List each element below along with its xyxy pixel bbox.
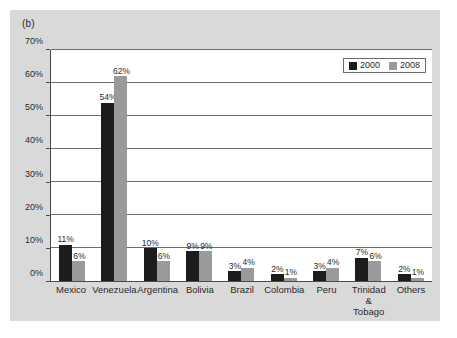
x-axis-category-label: Bolivia bbox=[179, 284, 221, 317]
bar-value-label: 4% bbox=[327, 258, 339, 267]
y-axis-tick bbox=[46, 248, 50, 249]
bar-value-label: 7% bbox=[356, 248, 368, 257]
bar-2000[interactable]: 3% bbox=[228, 271, 241, 281]
bar-2000[interactable]: 2% bbox=[398, 274, 411, 281]
bar-2000[interactable]: 9% bbox=[186, 251, 199, 281]
bar-value-label: 11% bbox=[57, 235, 73, 244]
y-axis-tick bbox=[46, 182, 50, 183]
y-axis-label: 30% bbox=[25, 169, 43, 178]
bar-2000[interactable]: 3% bbox=[313, 271, 326, 281]
legend-item-2000[interactable]: 2000 bbox=[349, 61, 380, 70]
bar-2008[interactable]: 6% bbox=[368, 261, 381, 281]
bar-value-label: 3% bbox=[229, 262, 241, 271]
y-axis-tick bbox=[46, 281, 50, 282]
bar-value-label: 1% bbox=[285, 268, 297, 277]
bar-value-label: 1% bbox=[412, 268, 424, 277]
legend-swatch-icon bbox=[349, 62, 357, 70]
legend-item-2008[interactable]: 2008 bbox=[389, 61, 420, 70]
bar-value-label: 3% bbox=[313, 262, 325, 271]
bar-group: 2%1% bbox=[390, 50, 432, 281]
bar-2000[interactable]: 54% bbox=[101, 103, 114, 281]
bar-group: 9%9% bbox=[178, 50, 220, 281]
x-axis-category-label: Mexico bbox=[50, 284, 92, 317]
bar-value-label: 9% bbox=[200, 242, 212, 251]
bar-2008[interactable]: 4% bbox=[241, 268, 254, 281]
bar-value-label: 6% bbox=[73, 252, 85, 261]
y-axis-label: 0% bbox=[30, 269, 43, 278]
bar-value-label: 62% bbox=[113, 67, 130, 76]
plot-wrapper: 11%6%54%62%10%6%9%9%3%4%2%1%3%4%7%6%2%1%… bbox=[50, 50, 432, 282]
bar-value-label: 6% bbox=[369, 252, 381, 261]
y-axis-tick bbox=[46, 115, 50, 116]
x-axis-category-label: Argentina bbox=[137, 284, 179, 317]
bar-2008[interactable]: 1% bbox=[284, 278, 297, 281]
bar-group: 11%6% bbox=[51, 50, 93, 281]
bar-2008[interactable]: 6% bbox=[72, 261, 85, 281]
bar-value-label: 2% bbox=[398, 265, 410, 274]
panel-label: (b) bbox=[22, 18, 35, 29]
bar-2008[interactable]: 9% bbox=[199, 251, 212, 281]
y-axis-label: 50% bbox=[25, 103, 43, 112]
bar-value-label: 4% bbox=[242, 258, 254, 267]
bar-group: 3%4% bbox=[220, 50, 262, 281]
bar-2000[interactable]: 11% bbox=[59, 245, 72, 281]
y-axis-label: 40% bbox=[25, 136, 43, 145]
y-axis-tick bbox=[46, 215, 50, 216]
x-axis-category-label: Colombia bbox=[263, 284, 305, 317]
bar-2008[interactable]: 62% bbox=[114, 76, 127, 281]
bar-group: 54%62% bbox=[93, 50, 135, 281]
y-axis-label: 60% bbox=[25, 70, 43, 79]
bar-series-container: 11%6%54%62%10%6%9%9%3%4%2%1%3%4%7%6%2%1% bbox=[51, 50, 432, 281]
legend-label: 2008 bbox=[400, 61, 420, 70]
x-axis-category-label: Trinidad & Tobago bbox=[348, 284, 390, 317]
y-axis-tick bbox=[46, 148, 50, 149]
bar-group: 10%6% bbox=[136, 50, 178, 281]
y-axis-tick bbox=[46, 82, 50, 83]
bar-2000[interactable]: 10% bbox=[144, 248, 157, 281]
bar-2008[interactable]: 4% bbox=[326, 268, 339, 281]
y-axis-tick bbox=[46, 49, 50, 50]
chart-legend: 20002008 bbox=[343, 58, 426, 73]
bar-value-label: 6% bbox=[158, 252, 170, 261]
x-axis-category-label: Venezuela bbox=[92, 284, 136, 317]
y-axis-label: 10% bbox=[25, 235, 43, 244]
x-axis-category-label: Others bbox=[390, 284, 432, 317]
bar-value-label: 9% bbox=[186, 242, 198, 251]
bar-value-label: 2% bbox=[271, 265, 283, 274]
bar-group: 3%4% bbox=[305, 50, 347, 281]
plot-area: 11%6%54%62%10%6%9%9%3%4%2%1%3%4%7%6%2%1% bbox=[50, 50, 432, 282]
bar-group: 7%6% bbox=[347, 50, 389, 281]
y-axis-label: 70% bbox=[25, 37, 43, 46]
bar-value-label: 10% bbox=[142, 239, 159, 248]
y-axis-label: 20% bbox=[25, 202, 43, 211]
legend-swatch-icon bbox=[389, 62, 397, 70]
legend-label: 2000 bbox=[360, 61, 380, 70]
bar-2000[interactable]: 2% bbox=[271, 274, 284, 281]
x-axis-category-label: Peru bbox=[305, 284, 347, 317]
x-axis-labels: MexicoVenezuelaArgentinaBoliviaBrazilCol… bbox=[50, 284, 432, 317]
bar-group: 2%1% bbox=[263, 50, 305, 281]
bar-2008[interactable]: 6% bbox=[157, 261, 170, 281]
x-axis-category-label: Brazil bbox=[221, 284, 263, 317]
bar-2000[interactable]: 7% bbox=[355, 258, 368, 281]
figure-panel: (b) 11%6%54%62%10%6%9%9%3%4%2%1%3%4%7%6%… bbox=[10, 10, 440, 321]
bar-2008[interactable]: 1% bbox=[411, 278, 424, 281]
